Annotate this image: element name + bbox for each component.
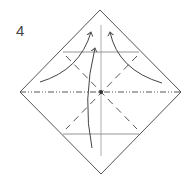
- origami-diagram: [0, 0, 195, 178]
- center-mark: [99, 90, 103, 94]
- bottom-flap-arrow: [88, 48, 95, 148]
